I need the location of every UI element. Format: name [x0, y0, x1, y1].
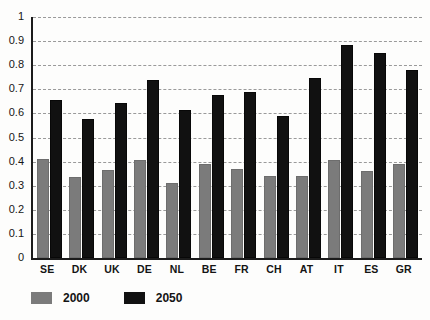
bar-fr-2050: [244, 92, 256, 258]
x-axis-tick-label: FR: [226, 264, 258, 275]
bar-es-2050: [374, 53, 386, 258]
bar-at-2050: [309, 78, 321, 258]
bar-group: [325, 17, 357, 258]
bar-group: [130, 17, 162, 258]
x-axis-tick-label: BE: [193, 264, 225, 275]
bar-dk-2050: [82, 119, 94, 258]
bar-fr-2000: [231, 169, 243, 258]
bar-be-2050: [212, 95, 224, 258]
x-axis-tick-label: NL: [161, 264, 193, 275]
bar-it-2000: [328, 160, 340, 258]
bar-se-2050: [50, 100, 62, 258]
bar-uk-2050: [115, 103, 127, 258]
legend-swatch-icon: [124, 292, 145, 304]
bar-group: [390, 17, 422, 258]
bar-gr-2000: [393, 164, 405, 258]
bar-ch-2000: [264, 176, 276, 258]
y-axis-tick-label: 0: [18, 252, 24, 263]
x-axis: SEDKUKDENLBEFRCHATITESGR: [31, 264, 420, 280]
x-axis-tick-label: AT: [290, 264, 322, 275]
plot-area: [31, 17, 422, 260]
y-axis: 10.90.80.70.60.50.40.30.20.10: [0, 0, 27, 320]
bar-es-2000: [361, 171, 373, 258]
x-axis-tick-label: ES: [355, 264, 387, 275]
x-axis-tick-label: GR: [388, 264, 420, 275]
legend-swatch-icon: [31, 292, 52, 304]
legend-label: 2050: [156, 292, 183, 304]
bar-de-2050: [147, 80, 159, 258]
bar-group: [357, 17, 389, 258]
bar-at-2000: [296, 176, 308, 258]
bar-group: [163, 17, 195, 258]
legend-entry-2000: 2000: [31, 292, 90, 304]
bar-chart: 10.90.80.70.60.50.40.30.20.10 SEDKUKDENL…: [0, 0, 430, 320]
y-axis-tick-label: 0.1: [9, 228, 24, 239]
bar-group: [195, 17, 227, 258]
bar-gr-2050: [406, 70, 418, 258]
x-axis-tick-label: IT: [323, 264, 355, 275]
y-axis-tick-label: 0.4: [9, 156, 24, 167]
bar-group: [98, 17, 130, 258]
legend-entry-2050: 2050: [124, 292, 183, 304]
x-axis-tick-label: CH: [258, 264, 290, 275]
bar-de-2000: [134, 160, 146, 258]
chart-legend: 20002050: [31, 288, 216, 308]
x-axis-tick-label: DE: [128, 264, 160, 275]
y-axis-tick-label: 0.6: [9, 107, 24, 118]
bar-group: [33, 17, 65, 258]
bar-group: [292, 17, 324, 258]
y-axis-tick-label: 0.7: [9, 83, 24, 94]
bar-se-2000: [37, 159, 49, 258]
x-axis-tick-label: DK: [63, 264, 95, 275]
legend-label: 2000: [63, 292, 90, 304]
y-axis-tick-label: 0.5: [9, 132, 24, 143]
bar-be-2000: [199, 164, 211, 258]
y-axis-tick-label: 0.3: [9, 180, 24, 191]
bar-uk-2000: [102, 170, 114, 258]
bar-nl-2000: [166, 183, 178, 258]
bar-group: [228, 17, 260, 258]
y-axis-tick-label: 0.2: [9, 204, 24, 215]
bar-group: [260, 17, 292, 258]
y-axis-tick-label: 0.9: [9, 35, 24, 46]
y-axis-tick-label: 0.8: [9, 59, 24, 70]
x-axis-tick-label: SE: [31, 264, 63, 275]
x-axis-tick-label: UK: [96, 264, 128, 275]
bar-it-2050: [341, 45, 353, 258]
bar-group: [65, 17, 97, 258]
y-axis-tick-label: 1: [18, 11, 24, 22]
bar-nl-2050: [179, 110, 191, 258]
bar-dk-2000: [69, 177, 81, 258]
bar-ch-2050: [277, 116, 289, 258]
